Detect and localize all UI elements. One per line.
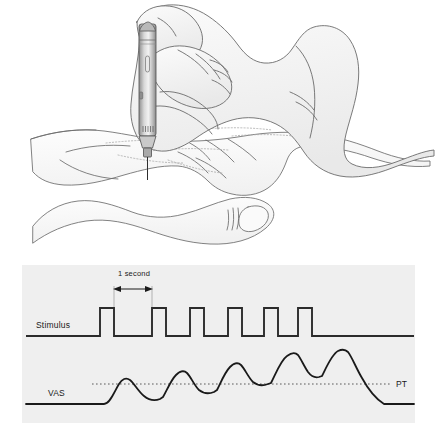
- lower-hand-silhouette: [31, 130, 430, 195]
- stimulus-trace-label: Stimulus: [36, 320, 70, 330]
- thumb-silhouette: [33, 197, 274, 244]
- pen-taper: [139, 136, 156, 148]
- trace-panel-background: [22, 265, 415, 423]
- pen-barrel: [139, 24, 156, 136]
- pen-button: [140, 92, 143, 99]
- illustration-hand-with-stimulator: [0, 0, 436, 262]
- lower-hand-group: [31, 130, 430, 196]
- one-second-scalebar-label: 1 second: [118, 269, 150, 278]
- thumb-group: [33, 197, 274, 244]
- pain-threshold-label: PT: [396, 379, 407, 389]
- traces-panel: [0, 258, 436, 431]
- pen-ferrule: [144, 148, 152, 157]
- vas-trace-label: VAS: [48, 388, 65, 398]
- pen-clip: [146, 56, 150, 72]
- figure-root: Stimulus VAS PT 1 second: [0, 0, 436, 431]
